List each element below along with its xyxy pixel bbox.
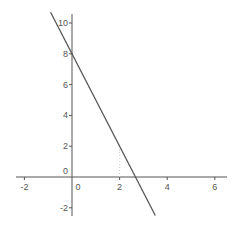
tick-labels: -20246-22468100 — [20, 18, 217, 213]
function-plot: -20246-22468100 — [0, 0, 237, 233]
x-tick-label: 0 — [75, 182, 80, 192]
y-tick-label: 6 — [63, 80, 68, 90]
y-tick-label: -2 — [60, 203, 68, 213]
x-tick-label: 4 — [165, 182, 170, 192]
origin-label: 0 — [63, 166, 68, 176]
y-tick-label: 2 — [63, 141, 68, 151]
x-tick-label: 6 — [212, 182, 217, 192]
y-tick-label: 4 — [63, 110, 68, 120]
x-tick-label: 2 — [117, 182, 122, 192]
y-tick-label: 8 — [63, 49, 68, 59]
y-tick-label: 10 — [58, 18, 68, 28]
x-tick-label: -2 — [20, 182, 28, 192]
